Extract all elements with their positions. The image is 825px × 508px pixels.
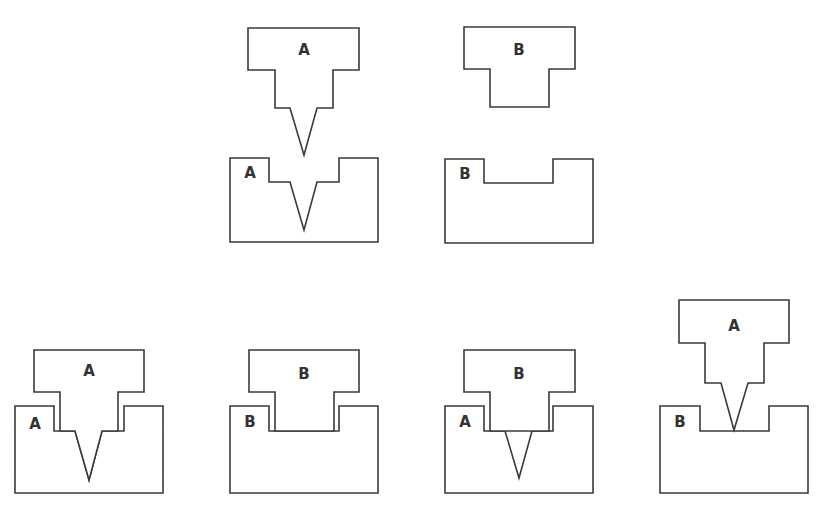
punch-a-label: A bbox=[298, 41, 310, 59]
die-a-label: A bbox=[244, 164, 256, 182]
combo-a-in-a-die-label: A bbox=[29, 415, 41, 433]
punch-b-label: B bbox=[513, 41, 524, 59]
top-row: A A B B bbox=[230, 27, 593, 243]
combo-b-in-b: B B bbox=[230, 350, 378, 493]
bottom-row: A A B B A B B A bbox=[15, 300, 808, 493]
combo-a-in-a-punch-label: A bbox=[83, 362, 95, 380]
die-b-label: B bbox=[459, 165, 470, 183]
punch-b: B bbox=[464, 27, 575, 107]
combo-b-in-a: A B bbox=[445, 350, 593, 493]
combo-a-on-b-punch-label: A bbox=[728, 317, 740, 335]
combo-b-in-b-die-label: B bbox=[244, 413, 255, 431]
punch-b-outline bbox=[464, 27, 575, 107]
die-b: B bbox=[445, 159, 593, 243]
combo-a-in-a: A A bbox=[15, 350, 163, 493]
combo-b-in-a-punch-label: B bbox=[513, 365, 524, 383]
punch-a: A bbox=[248, 28, 359, 155]
die-a: A bbox=[230, 158, 378, 242]
combo-a-on-b: B A bbox=[660, 300, 808, 493]
combo-b-in-a-die-label: A bbox=[459, 413, 471, 431]
combo-b-in-b-punch-label: B bbox=[298, 365, 309, 383]
punch-die-diagram: A A B B A A B B A bbox=[0, 0, 825, 508]
combo-a-on-b-die-label: B bbox=[674, 413, 685, 431]
